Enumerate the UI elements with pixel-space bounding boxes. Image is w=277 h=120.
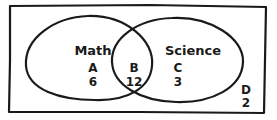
region-a-count: 6 [89,75,97,89]
science-ellipse [112,18,243,102]
region-c-label: C [174,61,183,75]
region-d-label: D [241,83,251,97]
region-a-label: A [88,61,98,75]
venn-diagram: Math A 6 B 12 Science C 3 D 2 [0,0,277,120]
region-c-count: 3 [174,75,182,89]
region-b-count: 12 [126,75,143,89]
science-set-label: Science [165,43,221,58]
math-set-label: Math [74,43,111,58]
region-d-count: 2 [242,96,250,110]
region-b-label: B [129,61,138,75]
universe-rectangle [9,5,266,113]
